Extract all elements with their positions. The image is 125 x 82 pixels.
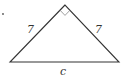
left-leg-label: 7 bbox=[27, 23, 34, 36]
hypotenuse-label: c bbox=[60, 65, 66, 78]
right-angle-marker bbox=[60, 10, 70, 15]
triangle-diagram: 7 7 c bbox=[0, 0, 125, 82]
stray-dot bbox=[2, 13, 4, 15]
right-leg-label: 7 bbox=[95, 23, 102, 36]
